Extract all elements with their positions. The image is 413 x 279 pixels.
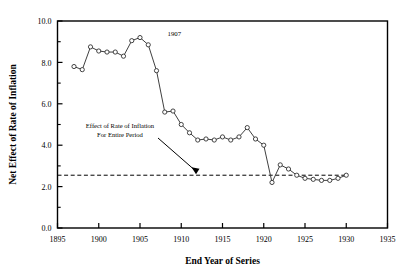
inflation-line-chart: 0.02.04.06.08.010.0189519001905191019151… <box>0 0 413 279</box>
data-point-marker <box>303 176 307 180</box>
reference-annotation-line1: Effect of Rate of Inflation <box>86 122 155 129</box>
data-point-marker <box>286 167 290 171</box>
data-point-marker <box>130 39 134 43</box>
peak-label: 1907 <box>168 30 182 37</box>
data-point-marker <box>253 137 257 141</box>
data-point-marker <box>237 135 241 139</box>
x-axis-tick-label: 1905 <box>132 235 148 244</box>
data-point-marker <box>113 50 117 54</box>
data-point-marker <box>336 176 340 180</box>
data-point-marker <box>171 109 175 113</box>
data-point-marker <box>97 49 101 53</box>
data-point-marker <box>88 45 92 49</box>
data-point-marker <box>220 135 224 139</box>
x-axis-tick-label: 1925 <box>297 235 313 244</box>
data-point-marker <box>146 43 150 47</box>
data-point-marker <box>328 178 332 182</box>
y-axis-tick-label: 2.0 <box>42 183 52 192</box>
data-point-marker <box>229 138 233 142</box>
data-point-marker <box>319 178 323 182</box>
y-axis-tick-label: 10.0 <box>38 17 52 26</box>
data-point-marker <box>163 110 167 114</box>
data-point-marker <box>278 163 282 167</box>
data-point-marker <box>138 35 142 39</box>
data-series-line <box>74 38 346 183</box>
data-point-marker <box>121 54 125 58</box>
data-point-marker <box>179 122 183 126</box>
data-point-marker <box>245 126 249 130</box>
x-axis-title: End Year of Series <box>185 256 260 266</box>
data-point-marker <box>72 64 76 68</box>
y-axis-tick-label: 6.0 <box>42 100 52 109</box>
annotation-arrow-shaft <box>158 138 196 171</box>
x-axis-tick-label: 1895 <box>50 235 66 244</box>
y-axis-tick-label: 0.0 <box>42 224 52 233</box>
data-point-marker <box>262 143 266 147</box>
x-axis-tick-label: 1915 <box>215 235 231 244</box>
data-point-marker <box>154 69 158 73</box>
data-point-marker <box>295 173 299 177</box>
x-axis-tick-label: 1910 <box>173 235 189 244</box>
data-point-marker <box>311 177 315 181</box>
data-point-marker <box>270 180 274 184</box>
y-axis-tick-label: 8.0 <box>42 59 52 68</box>
data-point-marker <box>344 173 348 177</box>
y-axis-tick-label: 4.0 <box>42 141 52 150</box>
data-point-marker <box>187 131 191 135</box>
data-point-marker <box>204 137 208 141</box>
reference-annotation-line2: For Entire Period <box>97 131 143 138</box>
data-point-marker <box>196 138 200 142</box>
chart-figure: 0.02.04.06.08.010.0189519001905191019151… <box>0 0 413 279</box>
x-axis-tick-label: 1920 <box>256 235 272 244</box>
data-point-marker <box>105 50 109 54</box>
data-point-marker <box>212 138 216 142</box>
x-axis-tick-label: 1930 <box>338 235 354 244</box>
data-point-marker <box>80 68 84 72</box>
annotation-arrow-head <box>192 167 200 174</box>
x-axis-tick-label: 1935 <box>380 235 396 244</box>
y-axis-title: Net Effect of Rate of Inflation <box>8 64 18 185</box>
x-axis-tick-label: 1900 <box>91 235 107 244</box>
